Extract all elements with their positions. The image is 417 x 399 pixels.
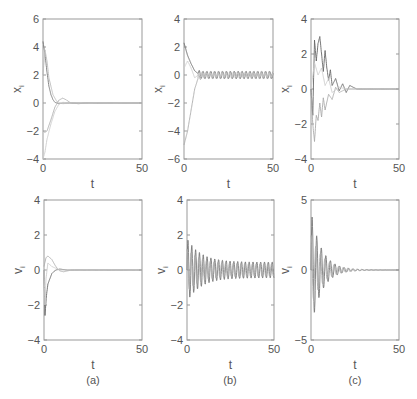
y-tick-label: 0 xyxy=(301,264,307,276)
y-tick-label: 2 xyxy=(174,41,180,53)
y-axis-label: vi xyxy=(154,266,170,274)
y-tick-label: −2 xyxy=(26,125,39,137)
series-x4 xyxy=(43,50,142,104)
y-tick-label: 4 xyxy=(174,13,180,25)
x-axis-label: t xyxy=(91,177,95,191)
y-tick-label: −4 xyxy=(294,153,307,165)
y-tick-label: 2 xyxy=(301,48,307,60)
y-tick-label: −2 xyxy=(27,299,40,311)
x-tick-label: 0 xyxy=(181,162,187,174)
x-tick-label: 0 xyxy=(184,343,190,355)
x-tick-label: 0 xyxy=(41,343,47,355)
y-tick-label: −2 xyxy=(170,299,183,311)
y-tick-label: −4 xyxy=(26,153,39,165)
y-tick-label: 4 xyxy=(177,194,183,206)
y-tick-label: 4 xyxy=(33,41,39,53)
y-tick-label: 2 xyxy=(177,229,183,241)
y-tick-label: 4 xyxy=(34,194,40,206)
x-tick-label: 50 xyxy=(136,162,148,174)
y-axis-label: xi xyxy=(278,85,294,93)
x-tick-label: 0 xyxy=(308,162,314,174)
figure: −4−20246050txi−6−4−2024050txi−4−2024050t… xyxy=(0,0,417,399)
y-tick-label: 0 xyxy=(301,83,307,95)
series-v1 xyxy=(44,269,142,315)
series-x2 xyxy=(311,87,399,141)
series-v3 xyxy=(44,263,142,305)
series-x3 xyxy=(43,102,142,159)
y-tick-label: −2 xyxy=(167,97,180,109)
x-axis-label: t xyxy=(91,358,95,372)
y-tick-label: −2 xyxy=(294,118,307,130)
y-tick-label: −6 xyxy=(167,153,180,165)
series-x2 xyxy=(184,72,273,146)
series-v2 xyxy=(311,236,399,299)
panel-caption: (a) xyxy=(86,374,99,386)
series-x1 xyxy=(43,41,142,103)
y-tick-label: −4 xyxy=(170,334,183,346)
y-tick-label: 2 xyxy=(34,229,40,241)
x-axis-label: t xyxy=(229,358,233,372)
y-tick-label: 0 xyxy=(177,264,183,276)
x-tick-label: 50 xyxy=(393,343,405,355)
x-tick-label: 50 xyxy=(393,162,405,174)
x-tick-label: 50 xyxy=(267,162,279,174)
x-axis-label: t xyxy=(353,358,357,372)
y-tick-label: 4 xyxy=(301,13,307,25)
x-tick-label: 0 xyxy=(40,162,46,174)
x-tick-label: 50 xyxy=(136,343,148,355)
y-tick-label: 0 xyxy=(174,69,180,81)
x-tick-label: 50 xyxy=(268,343,280,355)
y-tick-label: 5 xyxy=(301,194,307,206)
y-tick-label: 0 xyxy=(33,97,39,109)
y-tick-label: −4 xyxy=(27,334,40,346)
y-tick-label: 0 xyxy=(34,264,40,276)
y-tick-label: 6 xyxy=(33,13,39,25)
y-axis-label: xi xyxy=(10,85,26,93)
y-tick-label: −4 xyxy=(167,125,180,137)
y-axis-label: vi xyxy=(278,266,294,274)
y-tick-label: 2 xyxy=(33,69,39,81)
y-axis-label: xi xyxy=(151,85,167,93)
plot-frame-a_x xyxy=(43,19,142,159)
series-x1 xyxy=(184,43,273,79)
y-axis-label: vi xyxy=(11,266,27,274)
x-axis-label: t xyxy=(227,177,231,191)
x-axis-label: t xyxy=(353,177,357,191)
y-tick-label: −5 xyxy=(294,334,307,346)
panel-caption: (b) xyxy=(223,374,236,386)
panel-caption: (c) xyxy=(349,374,362,386)
plot-frame-b_x xyxy=(184,19,273,159)
x-tick-label: 0 xyxy=(308,343,314,355)
